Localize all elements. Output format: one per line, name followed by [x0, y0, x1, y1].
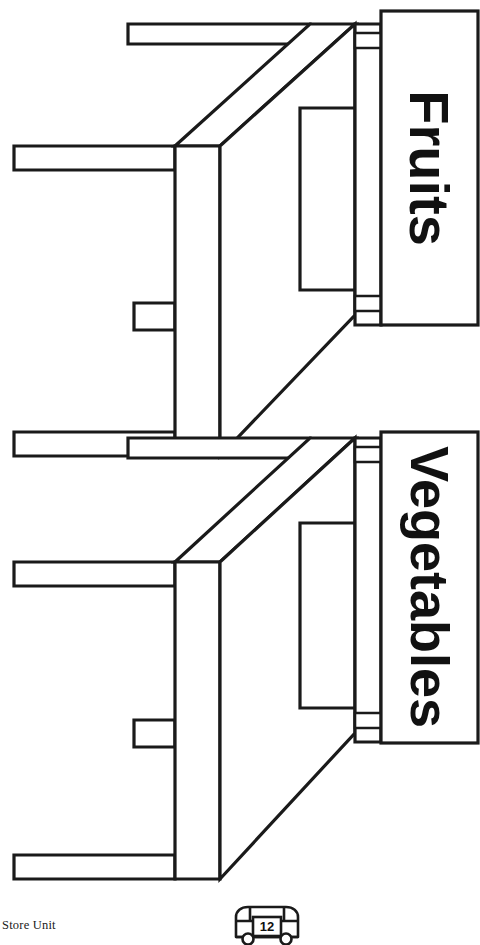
- bus-wheel-front: [243, 934, 254, 945]
- vegetables-front-face: [175, 562, 220, 879]
- vegetables-foot-bracket: [134, 720, 175, 747]
- vegetables-rear-panel: [300, 523, 355, 708]
- store-unit-line-drawing: .ln { fill:#ffffff; stroke:#1a1a1a; stro…: [0, 0, 480, 945]
- fruits-sign-bracket-bottom: [355, 296, 381, 311]
- fruits-shelf-bar-middle: [14, 146, 175, 170]
- fruits-front-face: [175, 146, 220, 456]
- fruits-shelf-bar-top: [128, 24, 310, 44]
- vegetables-riser-column: [355, 438, 381, 742]
- fruits-sign-label: Fruits: [398, 90, 461, 246]
- vegetables-sign-bracket-top: [355, 447, 381, 462]
- bus-badge: 12: [228, 901, 306, 945]
- fruits-foot-bracket: [134, 303, 175, 330]
- vegetables-shelf-bar-bottom: [14, 855, 175, 879]
- bus-number-label: 12: [260, 919, 274, 934]
- fruits-sign-bracket-top: [355, 33, 381, 48]
- vegetables-sign-bracket-bottom: [355, 713, 381, 728]
- bus-wheel-rear: [281, 934, 292, 945]
- vegetables-shelf-bar-middle: [14, 562, 175, 586]
- figure-caption: Store Unit: [2, 918, 56, 933]
- vegetables-shelf-bar-top: [128, 438, 310, 458]
- vegetables-sign-label: Vegetables: [400, 446, 460, 728]
- fruits-rear-panel: [300, 108, 355, 290]
- bus-icon: 12: [228, 901, 306, 945]
- fruits-riser-column: [355, 24, 381, 325]
- figure-canvas: .ln { fill:#ffffff; stroke:#1a1a1a; stro…: [0, 0, 480, 945]
